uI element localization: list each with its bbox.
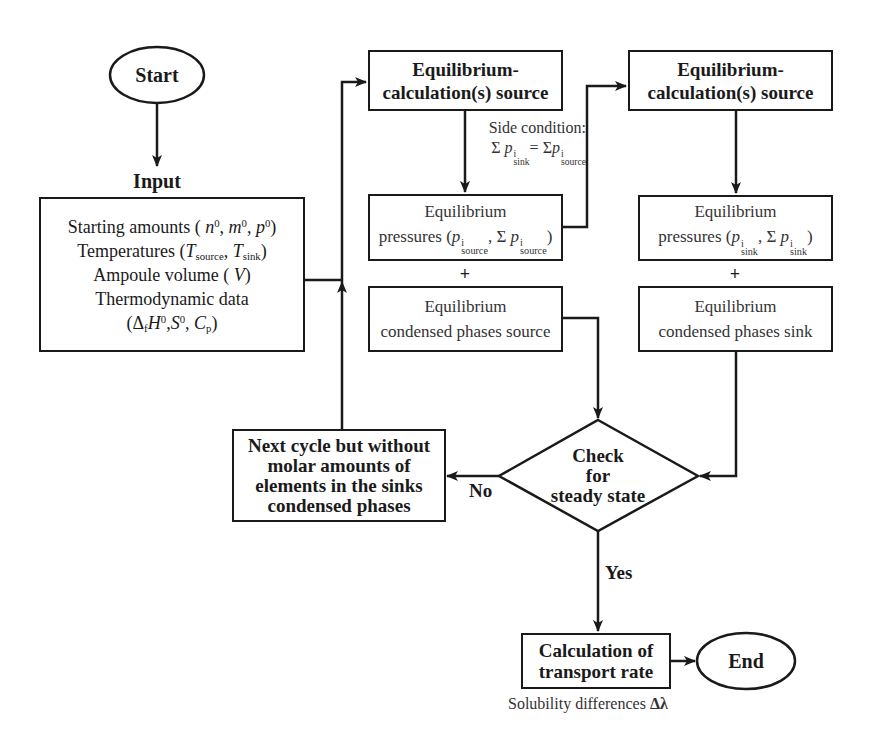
input-line-temperatures: Temperatures (Tsource, Tsink) (77, 239, 266, 263)
end-label: End (728, 650, 764, 673)
no-edge-label: No (469, 480, 492, 502)
eq-condensed-source-box: Equilibrium condensed phases source (368, 286, 563, 352)
start-label: Start (135, 64, 178, 87)
side-condition-label: Side condition: Σ pisink= Σpisource (480, 118, 586, 167)
input-line-thermo-params: (ΔfH0,S0, Cp) (127, 311, 218, 335)
arrow-condensed-source-to-check (562, 318, 598, 418)
eq-pressures-source-box: Equilibrium pressures (pisource, Σ pisou… (368, 194, 563, 261)
eq-calc-source-box-1: Equilibrium- calculation(s) source (368, 50, 563, 111)
input-heading: Input (127, 170, 187, 193)
input-box: Starting amounts ( n0, m0, p0) Temperatu… (39, 197, 305, 352)
input-line-thermodynamic-data: Thermodynamic data (95, 287, 248, 311)
check-steady-state-node: Check for steady state (520, 438, 676, 514)
arrow-trunk-to-eq-calc-1 (342, 82, 366, 282)
input-line-ampoule-volume: Ampoule volume ( V) (93, 263, 250, 287)
start-node: Start (110, 47, 204, 103)
eq-pressures-sink-box: Equilibrium pressures (pisink, Σ pisink) (638, 195, 833, 261)
eq-pressures-source-formula: pressures (pisource, Σ pisource) (379, 224, 553, 257)
next-cycle-box: Next cycle but without molar amounts of … (232, 429, 446, 522)
input-line-starting-amounts: Starting amounts ( n0, m0, p0) (68, 215, 277, 239)
eq-pressures-sink-formula: pressures (pisink, Σ pisink) (658, 224, 812, 257)
transport-rate-box: Calculation of transport rate (521, 633, 671, 689)
yes-edge-label: Yes (605, 562, 632, 584)
eq-condensed-sink-box: Equilibrium condensed phases sink (638, 286, 833, 352)
side-condition-formula: Σ pisink= Σpisource (480, 138, 586, 167)
arrow-condensed-sink-to-check (700, 351, 736, 476)
connectors-layer (0, 0, 869, 740)
solubility-differences-note: Solubility differences Δλ (508, 695, 668, 713)
eq-calc-source-box-2: Equilibrium- calculation(s) source (628, 50, 833, 111)
plus-sink-label: + (727, 264, 743, 285)
end-node: End (697, 633, 795, 689)
plus-source-label: + (457, 264, 473, 285)
